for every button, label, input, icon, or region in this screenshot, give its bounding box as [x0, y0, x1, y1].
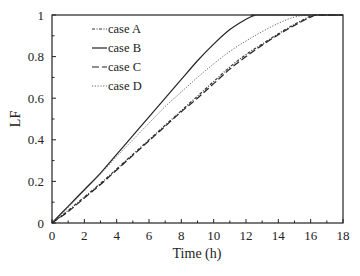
y-axis-title: LF — [8, 111, 23, 128]
y-tick-label: 1 — [38, 8, 45, 23]
x-tick-label: 8 — [178, 228, 185, 243]
x-tick-label: 0 — [49, 228, 56, 243]
legend-label: case D — [108, 79, 142, 93]
x-tick-label: 14 — [272, 228, 286, 243]
legend: case Acase Bcase Ccase D — [92, 22, 142, 93]
plot-frame — [52, 15, 343, 223]
legend-label: case A — [108, 22, 141, 36]
y-tick-label: 0.4 — [28, 132, 45, 147]
x-tick-label: 6 — [146, 228, 153, 243]
x-tick-label: 10 — [207, 228, 220, 243]
y-tick-label: 0 — [38, 216, 45, 231]
x-tick-label: 2 — [81, 228, 88, 243]
legend-label: case B — [108, 41, 141, 55]
line-chart: 024681012141618 00.20.40.60.81 Time (h) … — [0, 0, 360, 276]
x-tick-label: 18 — [337, 228, 350, 243]
x-axis-title: Time (h) — [173, 246, 222, 262]
legend-label: case C — [108, 60, 141, 74]
series-line-case-d — [52, 15, 343, 223]
series-line-case-c — [52, 15, 343, 223]
series-line-case-a — [52, 15, 343, 223]
y-tick-label: 0.6 — [28, 91, 45, 106]
x-tick-label: 12 — [240, 228, 253, 243]
series-line-case-b — [52, 15, 343, 223]
y-tick-label: 0.8 — [28, 49, 44, 64]
x-tick-label: 16 — [304, 228, 318, 243]
y-tick-label: 0.2 — [28, 174, 44, 189]
x-tick-label: 4 — [113, 228, 120, 243]
